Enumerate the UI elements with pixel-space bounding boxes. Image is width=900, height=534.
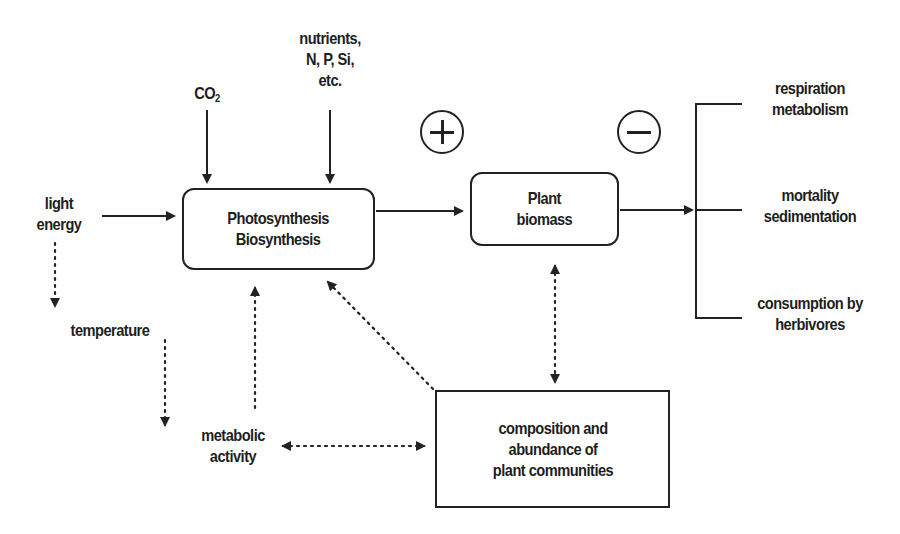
co2-label: CO2 (189, 83, 225, 109)
diagram-canvas: CO2 nutrients, N, P, Si, etc. light ener… (0, 0, 900, 534)
loss-consumption-label: consumption by herbivores (754, 293, 866, 335)
photosynthesis-box: Photosynthesis Biosynthesis (182, 188, 375, 270)
dotted-communities-to-photosynthesis (328, 282, 433, 389)
loss-mortality-label: mortality sedimentation (754, 185, 866, 227)
nutrients-label: nutrients, N, P, Si, etc. (287, 28, 373, 91)
loss-respiration-label: respiration metabolism (754, 78, 866, 120)
temperature-label: temperature (58, 320, 161, 341)
plant-biomass-box: Plant biomass (470, 172, 619, 246)
plant-communities-box: composition and abundance of plant commu… (435, 390, 670, 508)
negative-sign-icon (617, 110, 661, 154)
light-energy-label: light energy (32, 193, 85, 235)
positive-sign-icon (420, 110, 464, 154)
metabolic-activity-label: metabolic activity (194, 425, 271, 467)
